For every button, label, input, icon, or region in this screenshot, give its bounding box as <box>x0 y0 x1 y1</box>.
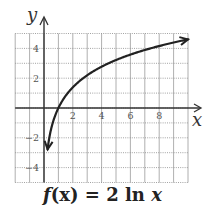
graph-chart: 2468−4−224 x y <box>0 0 205 212</box>
x-axis-label: x <box>192 109 202 130</box>
caption-var: x <box>151 184 162 205</box>
caption-f: f <box>43 184 51 205</box>
caption-eq: = 2 ln <box>79 184 152 205</box>
function-curve <box>48 39 188 149</box>
svg-text:4: 4 <box>99 110 105 121</box>
svg-text:2: 2 <box>33 73 39 84</box>
svg-text:2: 2 <box>70 110 76 121</box>
svg-text:−4: −4 <box>25 162 39 173</box>
svg-text:8: 8 <box>156 110 162 121</box>
function-caption: f(x) = 2 ln x <box>0 184 205 205</box>
svg-text:6: 6 <box>127 110 133 121</box>
caption-arg: (x) <box>51 184 79 205</box>
y-axis-label: y <box>26 4 38 25</box>
svg-text:−2: −2 <box>25 132 39 143</box>
svg-text:4: 4 <box>33 43 39 54</box>
